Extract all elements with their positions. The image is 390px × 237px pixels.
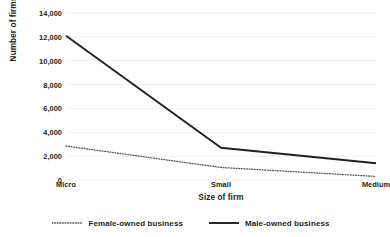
dotted-line-icon	[52, 220, 82, 226]
x-tick-label: Micro	[56, 180, 76, 189]
x-axis-title: Size of firm	[66, 193, 376, 202]
solid-line-icon	[209, 220, 239, 226]
x-tick-label: Small	[211, 180, 231, 189]
legend-item: Male-owned business	[209, 219, 330, 228]
x-tick-label: Medium	[362, 180, 390, 189]
series-line	[66, 36, 376, 164]
x-axis-tick-labels: MicroSmallMedium	[0, 180, 382, 192]
legend-item: Female-owned business	[52, 219, 183, 228]
gridlines	[66, 13, 376, 180]
legend-label: Female-owned business	[88, 219, 183, 228]
legend-label: Male-owned business	[245, 219, 330, 228]
series-line	[66, 146, 376, 176]
series-lines	[66, 36, 376, 177]
chart-legend: Female-owned businessMale-owned business	[0, 214, 382, 232]
